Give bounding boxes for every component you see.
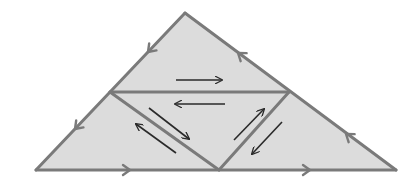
triangle-subdivision-diagram xyxy=(0,0,415,179)
